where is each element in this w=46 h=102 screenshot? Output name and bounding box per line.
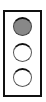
lamp-bottom-icon (13, 68, 32, 87)
lamp-top-icon (13, 17, 32, 36)
traffic-light-indicator (3, 10, 42, 97)
lamp-middle-icon (13, 43, 32, 62)
